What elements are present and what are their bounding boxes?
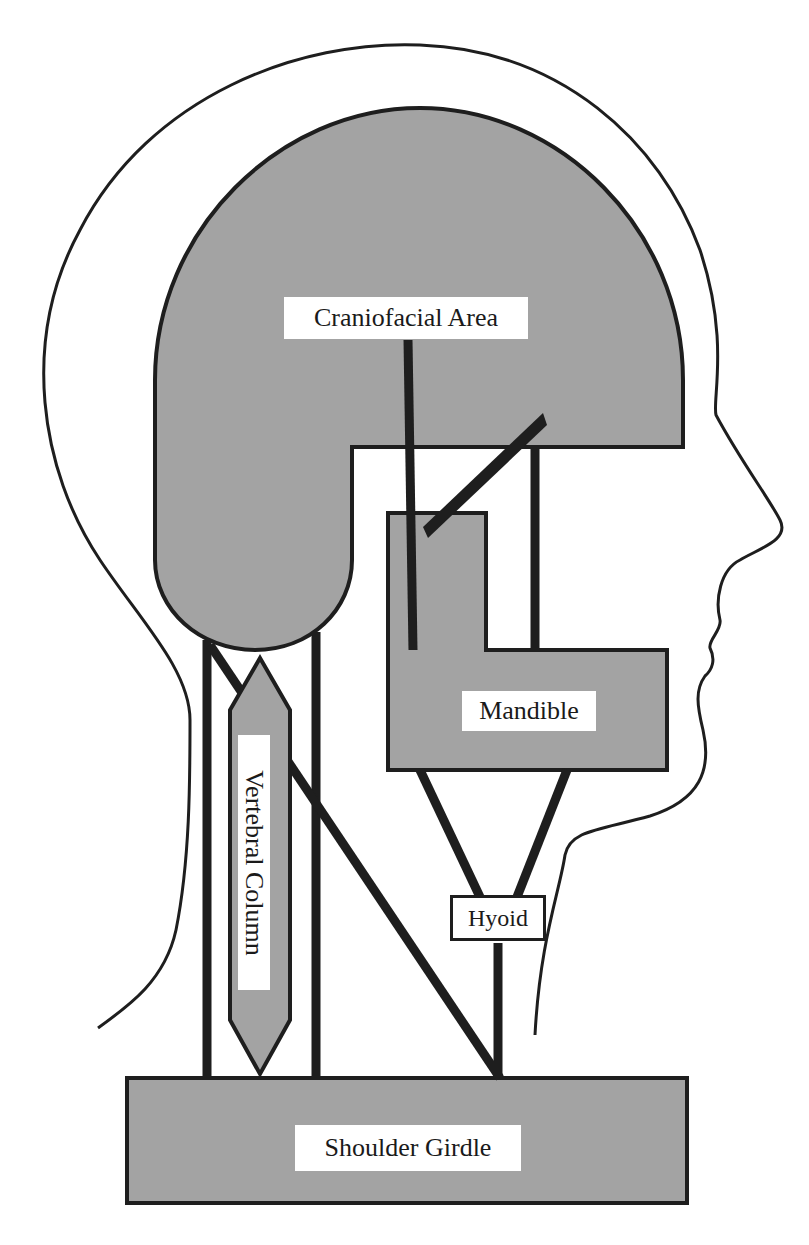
vertebral-column-label: Vertebral Column: [238, 735, 270, 990]
mandible-label: Mandible: [462, 691, 596, 731]
vertebral-column-label-text: Vertebral Column: [241, 770, 267, 956]
head-neck-diagram: [0, 0, 809, 1245]
hyoid-label: Hyoid: [450, 895, 546, 941]
shoulder-girdle-label: Shoulder Girdle: [295, 1125, 521, 1171]
mandible-shape: [388, 513, 667, 770]
muscle-line-mandible-hyoid-left: [420, 770, 480, 897]
craniofacial-area-label: Craniofacial Area: [284, 297, 528, 339]
muscle-line-vertical-cranio-mandible: [408, 340, 413, 650]
